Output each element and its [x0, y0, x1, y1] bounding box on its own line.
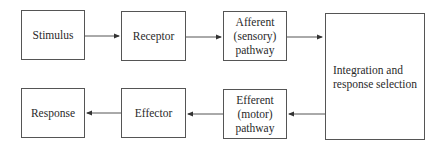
connector-arrows — [0, 0, 441, 151]
